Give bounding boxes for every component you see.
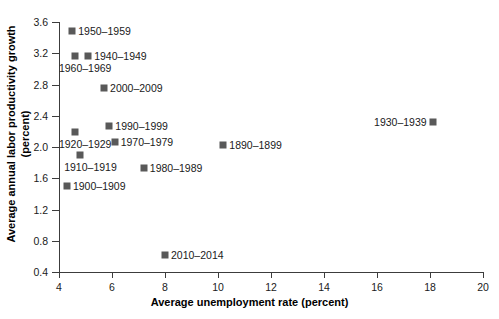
plot-area: 0.40.81.21.62.02.42.83.23.64681012141618… (59, 22, 483, 272)
data-point (85, 52, 92, 59)
y-axis-title: Average annual labor productivity growth… (4, 9, 32, 259)
x-axis-tick-label: 16 (371, 280, 383, 294)
data-point-label: 1990–1999 (115, 120, 168, 132)
data-point (71, 52, 78, 59)
y-axis-tick: 3.2 (52, 53, 59, 54)
x-axis-tick (430, 272, 431, 278)
data-point (71, 129, 78, 136)
data-point-label: 1930–1939 (374, 116, 427, 128)
data-point (429, 119, 436, 126)
x-axis-tick-label: 12 (265, 280, 277, 294)
data-point-label: 1920–1929 (59, 138, 112, 150)
x-axis-tick (377, 272, 378, 278)
data-point (63, 183, 70, 190)
x-axis-tick-label: 20 (477, 280, 489, 294)
x-axis-tick (483, 272, 484, 278)
data-point-label: 1910–1919 (64, 161, 117, 173)
data-point-label: 1940–1949 (94, 50, 147, 62)
data-point-label: 1970–1979 (121, 136, 174, 148)
x-axis-tick (165, 272, 166, 278)
data-point (77, 151, 84, 158)
x-axis-tick-label: 10 (212, 280, 224, 294)
data-point-label: 1980–1989 (150, 162, 203, 174)
y-axis-tick: 3.6 (52, 22, 59, 23)
x-axis-tick-label: 8 (162, 280, 168, 294)
y-axis-tick: 2.8 (52, 85, 59, 86)
data-point (101, 85, 108, 92)
y-axis-tick: 1.6 (52, 178, 59, 179)
x-axis-title: Average unemployment rate (percent) (0, 296, 499, 308)
x-axis-tick (59, 272, 60, 278)
x-axis-tick-label: 6 (109, 280, 115, 294)
x-axis-tick (112, 272, 113, 278)
data-point (69, 28, 76, 35)
y-axis-tick: 0.4 (52, 272, 59, 273)
y-axis-tick: 2.4 (52, 116, 59, 117)
data-point-label: 1890–1899 (229, 139, 282, 151)
data-point (111, 139, 118, 146)
data-point-label: 2010–2014 (171, 249, 224, 261)
x-axis-tick (218, 272, 219, 278)
scatter-chart: 0.40.81.21.62.02.42.83.23.64681012141618… (0, 0, 499, 319)
y-axis-tick: 0.8 (52, 241, 59, 242)
x-axis-tick (271, 272, 272, 278)
data-point-label: 2000–2009 (110, 82, 163, 94)
data-point-label: 1960–1969 (59, 62, 112, 74)
y-axis-tick: 1.2 (52, 210, 59, 211)
data-point (220, 141, 227, 148)
x-axis-tick (324, 272, 325, 278)
data-point (162, 251, 169, 258)
data-point (106, 122, 113, 129)
data-point (140, 165, 147, 172)
x-axis-tick-label: 4 (56, 280, 62, 294)
x-axis-tick-label: 18 (424, 280, 436, 294)
x-axis-tick-label: 14 (318, 280, 330, 294)
data-point-label: 1900–1909 (73, 180, 126, 192)
data-point-label: 1950–1959 (78, 25, 131, 37)
y-axis-title-wrap: Average annual labor productivity growth… (0, 0, 36, 300)
